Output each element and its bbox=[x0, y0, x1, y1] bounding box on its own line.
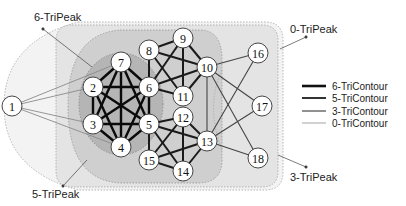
label-6-tripeak: 6-TriPeak bbox=[34, 11, 82, 23]
node-label: 14 bbox=[177, 165, 189, 179]
node-14: 14 bbox=[173, 161, 193, 181]
node-6: 6 bbox=[139, 77, 159, 97]
node-label: 15 bbox=[143, 154, 155, 168]
node-11: 11 bbox=[173, 86, 193, 106]
pointer-6-tripeak-dot bbox=[42, 28, 44, 30]
pointer-5-tripeak-dot bbox=[62, 185, 64, 187]
node-label: 9 bbox=[180, 32, 186, 46]
node-label: 17 bbox=[256, 100, 268, 114]
node-label: 12 bbox=[177, 111, 189, 125]
node-8: 8 bbox=[139, 40, 159, 60]
node-9: 9 bbox=[173, 28, 193, 48]
node-label: 3 bbox=[90, 118, 96, 132]
node-label: 6 bbox=[146, 81, 152, 95]
node-2: 2 bbox=[83, 77, 103, 97]
node-7: 7 bbox=[111, 52, 131, 72]
node-label: 5 bbox=[146, 118, 152, 132]
node-4: 4 bbox=[111, 137, 131, 157]
node-10: 10 bbox=[197, 57, 217, 77]
node-label: 18 bbox=[252, 152, 264, 166]
node-label: 2 bbox=[90, 81, 96, 95]
pointer-0-tripeak-dot bbox=[305, 36, 307, 38]
node-16: 16 bbox=[248, 43, 268, 63]
legend-label-5: 5-TriContour bbox=[332, 93, 388, 104]
pointer-3-tripeak-dot bbox=[305, 166, 307, 168]
legend: 6-TriContour 5-TriContour 3-TriContour 0… bbox=[302, 81, 388, 129]
legend-label-0: 0-TriContour bbox=[332, 118, 388, 129]
tripeak-diagram: 123456789101112131415161718 6-TriPeak 5-… bbox=[0, 0, 406, 206]
legend-label-6: 6-TriContour bbox=[332, 81, 388, 92]
node-label: 16 bbox=[252, 47, 264, 61]
pointer-0-tripeak bbox=[280, 37, 306, 49]
node-12: 12 bbox=[173, 107, 193, 127]
legend-label-3: 3-TriContour bbox=[332, 106, 388, 117]
label-0-tripeak: 0-TriPeak bbox=[290, 23, 338, 35]
node-13: 13 bbox=[197, 131, 217, 151]
node-18: 18 bbox=[248, 148, 268, 168]
node-label: 10 bbox=[201, 61, 213, 75]
node-label: 7 bbox=[118, 56, 124, 70]
node-1: 1 bbox=[2, 96, 22, 116]
node-17: 17 bbox=[252, 96, 272, 116]
node-15: 15 bbox=[139, 150, 159, 170]
node-label: 13 bbox=[201, 135, 213, 149]
node-label: 4 bbox=[118, 141, 124, 155]
node-5: 5 bbox=[139, 114, 159, 134]
node-label: 1 bbox=[9, 100, 15, 114]
node-label: 11 bbox=[177, 90, 189, 104]
node-3: 3 bbox=[83, 114, 103, 134]
label-3-tripeak: 3-TriPeak bbox=[290, 171, 338, 183]
label-5-tripeak: 5-TriPeak bbox=[32, 188, 80, 200]
node-label: 8 bbox=[146, 44, 152, 58]
